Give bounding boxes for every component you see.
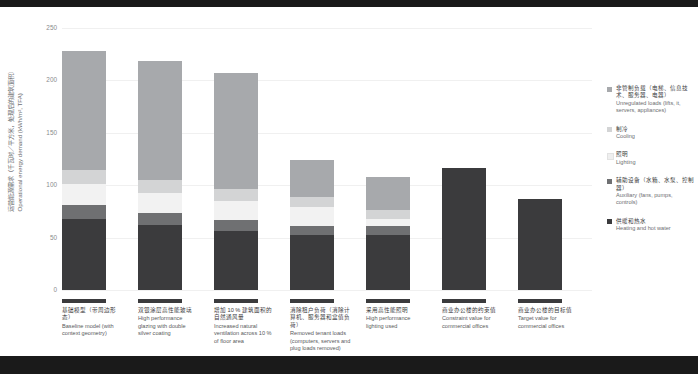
x-label-2: 双银涂层高性能玻璃High performance glazing with d… (138, 299, 200, 338)
legend-label-cn: 辅助设备（水箱、水泵、控制器） (616, 177, 695, 192)
y-tick-250: 250 (31, 24, 57, 31)
bar-segment-lighting[interactable] (290, 207, 334, 225)
legend-swatch-icon (607, 153, 614, 160)
legend-label-en: Cooling (616, 133, 695, 140)
legend-label-en: Auxiliary (fans, pumps, controls) (616, 192, 695, 207)
legend-swatch-icon (607, 179, 612, 184)
bar-1[interactable] (62, 51, 106, 290)
bar-group (62, 7, 596, 290)
legend-item-5[interactable]: 供暖和热水Heating and hot water (607, 218, 695, 233)
gridline-0 (62, 290, 592, 291)
x-label-swatch (366, 299, 410, 303)
x-label-cn: 商业办公楼的目标值 (518, 307, 580, 314)
bar-segment-heating[interactable] (442, 168, 486, 290)
x-label-cn: 消除租户负荷（消除计算机、服务器和盒值负荷） (290, 307, 352, 329)
x-label-5: 采用高性能照明High performance lighting used (366, 299, 428, 330)
x-label-en: High performance lighting used (366, 315, 428, 330)
bar-6[interactable] (442, 168, 486, 290)
chart-legend: 非管制负载（电梯、信息技术、服务器、电器）Unregulated loads (… (607, 85, 695, 244)
bar-segment-heating[interactable] (214, 231, 258, 290)
bar-segment-unregulated[interactable] (214, 73, 258, 190)
legend-label-en: Lighting (616, 159, 695, 166)
y-tick-0: 0 (31, 286, 57, 293)
bar-segment-cooling[interactable] (366, 210, 410, 219)
x-label-en: High performance glazing with double sil… (138, 315, 200, 337)
y-axis-label-en: Operational energy demand (kWh/m², TFA) (16, 12, 25, 212)
legend-item-4[interactable]: 辅助设备（水箱、水泵、控制器）Auxiliary (fans, pumps, c… (607, 177, 695, 207)
bar-segment-lighting[interactable] (62, 184, 106, 206)
bar-segment-heating[interactable] (138, 225, 182, 290)
x-label-6: 商业办公楼的约束值Constraint value for commercial… (442, 299, 504, 330)
x-label-7: 商业办公楼的目标值Target value for commercial off… (518, 299, 580, 330)
bar-segment-heating[interactable] (518, 199, 562, 290)
bar-segment-auxiliary[interactable] (138, 213, 182, 225)
bar-segment-auxiliary[interactable] (290, 226, 334, 235)
x-axis-category-labels: 基础模型（带周边形态）Baseline model (with context … (62, 299, 622, 361)
bar-segment-heating[interactable] (290, 235, 334, 290)
bar-segment-heating[interactable] (62, 219, 106, 290)
y-axis-label-cn: 运营能源需求（千瓦时／平方米，处理后的建筑面积） (7, 12, 16, 212)
x-label-4: 消除租户负荷（消除计算机、服务器和盒值负荷）Removed tenant loa… (290, 299, 352, 352)
bar-7[interactable] (518, 199, 562, 290)
chart-page: 运营能源需求（千瓦时／平方米，处理后的建筑面积） Operational ene… (0, 0, 698, 374)
bar-segment-unregulated[interactable] (138, 61, 182, 180)
x-label-swatch (62, 299, 106, 303)
x-label-cn: 增加 10 % 建筑面积的自然通风量 (214, 307, 276, 322)
legend-label-cn: 制冷 (616, 126, 695, 133)
legend-swatch-icon (607, 219, 612, 224)
x-label-cn: 双银涂层高性能玻璃 (138, 307, 200, 314)
x-label-swatch (442, 299, 486, 303)
bar-segment-cooling[interactable] (290, 197, 334, 207)
x-label-en: Removed tenant loads (computers, servers… (290, 330, 352, 352)
bar-segment-lighting[interactable] (214, 201, 258, 220)
legend-item-2[interactable]: 制冷Cooling (607, 126, 695, 141)
legend-label-en: Heating and hot water (616, 225, 695, 232)
bar-segment-unregulated[interactable] (62, 51, 106, 170)
x-label-swatch (290, 299, 334, 303)
legend-label-cn: 照明 (616, 151, 695, 158)
bar-4[interactable] (290, 160, 334, 290)
bar-5[interactable] (366, 177, 410, 290)
x-label-cn: 采用高性能照明 (366, 307, 428, 314)
bar-segment-auxiliary[interactable] (366, 226, 410, 235)
bar-2[interactable] (138, 61, 182, 290)
x-label-en: Target value for commercial offices (518, 315, 580, 330)
legend-swatch-icon (607, 87, 612, 92)
legend-item-1[interactable]: 非管制负载（电梯、信息技术、服务器、电器）Unregulated loads (… (607, 85, 695, 115)
x-label-en: Increased natural ventilation across 10 … (214, 323, 276, 345)
x-label-en: Constraint value for commercial offices (442, 315, 504, 330)
y-axis-label: 运营能源需求（千瓦时／平方米，处理后的建筑面积） Operational ene… (7, 12, 24, 212)
bar-segment-auxiliary[interactable] (214, 220, 258, 231)
x-label-swatch (214, 299, 258, 303)
x-label-swatch (518, 299, 562, 303)
x-label-en: Baseline model (with context geometry) (62, 323, 124, 338)
y-tick-100: 100 (31, 181, 57, 188)
y-tick-150: 150 (31, 129, 57, 136)
legend-label-en: Unregulated loads (lifts, it, servers, a… (616, 100, 695, 115)
bar-segment-unregulated[interactable] (290, 160, 334, 197)
chart-plot-area: 运营能源需求（千瓦时／平方米，处理后的建筑面积） Operational ene… (0, 7, 698, 356)
bar-segment-heating[interactable] (366, 235, 410, 290)
y-tick-50: 50 (31, 234, 57, 241)
bar-segment-auxiliary[interactable] (62, 205, 106, 219)
bar-segment-cooling[interactable] (138, 180, 182, 192)
x-label-1: 基础模型（带周边形态）Baseline model (with context … (62, 299, 124, 338)
bar-segment-lighting[interactable] (138, 193, 182, 213)
x-label-cn: 基础模型（带周边形态） (62, 307, 124, 322)
y-tick-200: 200 (31, 76, 57, 83)
x-label-cn: 商业办公楼的约束值 (442, 307, 504, 314)
bar-segment-unregulated[interactable] (366, 177, 410, 210)
top-black-band (0, 0, 698, 7)
x-label-3: 增加 10 % 建筑面积的自然通风量Increased natural vent… (214, 299, 276, 345)
legend-item-3[interactable]: 照明Lighting (607, 151, 695, 166)
bar-segment-cooling[interactable] (62, 170, 106, 184)
bar-segment-cooling[interactable] (214, 189, 258, 200)
legend-swatch-icon (607, 127, 612, 132)
legend-label-cn: 非管制负载（电梯、信息技术、服务器、电器） (616, 85, 695, 100)
x-label-swatch (138, 299, 182, 303)
bar-segment-lighting[interactable] (366, 219, 410, 226)
legend-label-cn: 供暖和热水 (616, 218, 695, 225)
bar-3[interactable] (214, 73, 258, 290)
